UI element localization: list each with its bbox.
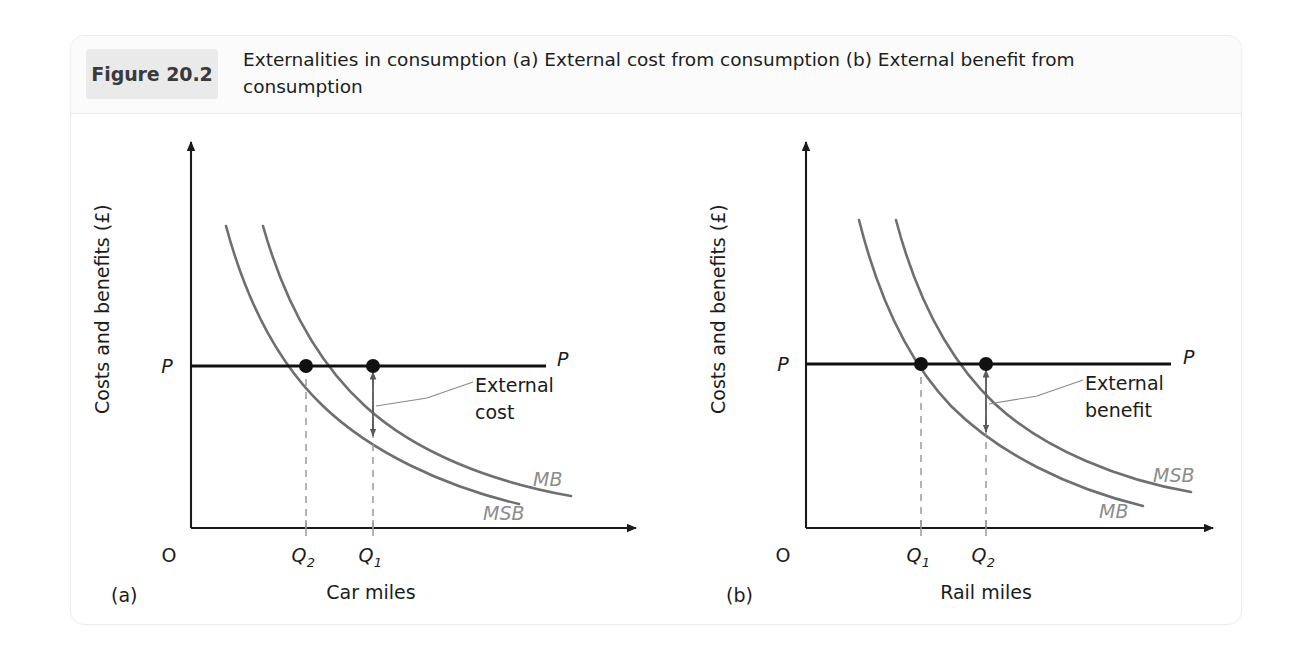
curve-label-msb-b: MSB [1153,464,1195,486]
price-label-right-b: P [1183,346,1195,368]
x-axis-title-a: Car miles [326,581,415,603]
x-tick-sub-q2-b: 2 [987,555,995,570]
origin-label-a: O [162,544,177,566]
annotation-line2-a: cost [475,401,514,423]
curve-label-mb-a: MB [533,468,562,490]
figure-number-badge: Figure 20.2 [86,49,218,99]
annotation-leader-a [376,382,473,406]
curve-msb-b [896,220,1191,492]
x-tick-sub-q2-a: 2 [307,555,315,570]
figure-header: Figure 20.2 Externalities in consumption… [71,36,1241,114]
price-label-left-a: P [161,355,173,377]
equilibrium-dot-q2-a [299,359,313,373]
chart-a-svg: Costs and benefits (£) P P O Q 2 Q 1 Car… [71,114,661,626]
price-label-right-a: P [557,348,569,370]
equilibrium-dot-q1-b [914,357,928,371]
curve-label-mb-b: MB [1099,500,1128,522]
y-axis-title-b: Costs and benefits (£) [707,204,729,414]
chart-b-svg: Costs and benefits (£) P P O Q 1 Q 2 Rai… [631,114,1241,626]
x-tick-label-q1-b: Q [907,544,922,566]
price-label-left-b: P [777,353,789,375]
curve-label-msb-a: MSB [483,502,525,524]
figure-title: Externalities in consumption (a) Externa… [243,46,1173,100]
equilibrium-dot-q2-b [979,357,993,371]
panel-caption-a: (a) [111,584,137,606]
origin-label-b: O [776,544,791,566]
chart-panel-a: Costs and benefits (£) P P O Q 2 Q 1 Car… [71,114,661,626]
figure-card: Figure 20.2 Externalities in consumption… [70,35,1242,625]
y-axis-title-a: Costs and benefits (£) [91,204,113,414]
annotation-line2-b: benefit [1085,399,1152,421]
x-axis-title-b: Rail miles [940,581,1032,603]
x-tick-label-q2-a: Q [292,544,307,566]
panel-caption-b: (b) [726,584,753,606]
annotation-line1-b: External [1085,372,1164,394]
equilibrium-dot-q1-a [366,359,380,373]
x-tick-label-q2-b: Q [972,544,987,566]
x-tick-label-q1-a: Q [359,544,374,566]
chart-panel-b: Costs and benefits (£) P P O Q 1 Q 2 Rai… [631,114,1241,626]
annotation-line1-a: External [475,374,554,396]
figure-number-label: Figure 20.2 [86,49,218,99]
x-tick-sub-q1-b: 1 [922,555,930,570]
annotation-leader-b [989,380,1083,404]
x-tick-sub-q1-a: 1 [374,555,382,570]
